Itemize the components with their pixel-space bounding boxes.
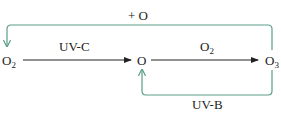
loop-o3-to-o <box>142 70 272 95</box>
label-o2-reactant: O2 <box>200 40 214 56</box>
label-uv-c: UV-C <box>59 40 90 53</box>
loop-o3-to-o2 <box>7 25 272 50</box>
species-o3: O3 <box>265 54 279 70</box>
label-uv-b: UV-B <box>192 98 223 111</box>
species-o2: O2 <box>2 54 16 70</box>
species-o: O <box>137 54 146 67</box>
label-plus-o: + O <box>128 9 148 22</box>
